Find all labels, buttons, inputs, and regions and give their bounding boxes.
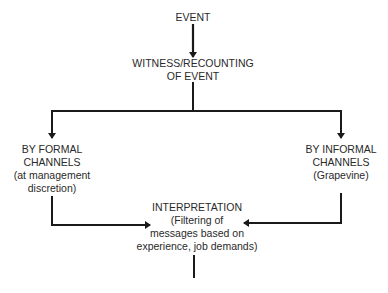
node-witness-line-2: OF EVENT [132, 70, 253, 83]
node-formal-channels: BY FORMAL CHANNELS (at management discre… [14, 143, 90, 195]
node-interpretation-line-4: experience, job demands) [137, 240, 258, 253]
node-formal-line-4: discretion) [14, 182, 90, 195]
node-interpretation-line-1: INTERPRETATION [137, 201, 258, 214]
node-interpretation-line-3: messages based on [137, 227, 258, 240]
node-witness-line-1: WITNESS/RECOUNTING [132, 57, 253, 70]
node-informal-channels: BY INFORMAL CHANNELS (Grapevine) [306, 143, 377, 182]
node-informal-line-2: CHANNELS [306, 156, 377, 169]
node-informal-line-3: (Grapevine) [306, 169, 377, 182]
flowchart-canvas: EVENT WITNESS/RECOUNTING OF EVENT BY FOR… [0, 0, 388, 293]
edge-formal-to-interpretation [52, 196, 150, 225]
node-interpretation-line-2: (Filtering of [137, 214, 258, 227]
node-interpretation: INTERPRETATION (Filtering of messages ba… [137, 201, 258, 253]
node-formal-line-3: (at management [14, 169, 90, 182]
node-formal-line-2: CHANNELS [14, 156, 90, 169]
node-event-line-1: EVENT [175, 11, 210, 24]
node-informal-line-1: BY INFORMAL [306, 143, 377, 156]
edge-informal-to-interpretation [244, 193, 341, 223]
node-event: EVENT [175, 11, 210, 24]
node-formal-line-1: BY FORMAL [14, 143, 90, 156]
node-witness: WITNESS/RECOUNTING OF EVENT [132, 57, 253, 83]
